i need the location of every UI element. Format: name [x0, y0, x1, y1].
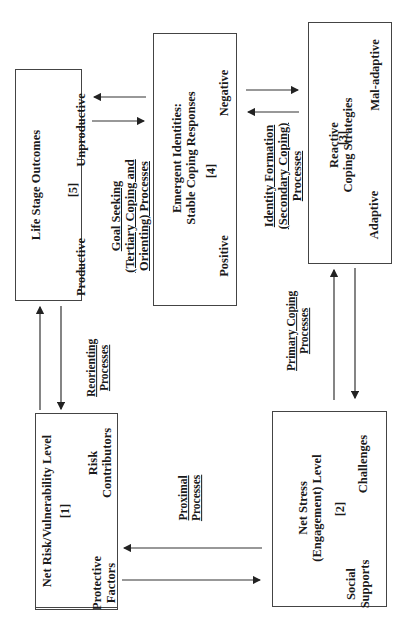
maladaptive-label: Mal-adaptive [368, 28, 382, 123]
emergent-title: Emergent Identities: Stable Coping Respo… [170, 78, 198, 238]
unproductive-label: Unproductive [74, 80, 88, 180]
life-stage-outcomes-box: Life Stage Outcomes [5] Productive Unpro… [15, 69, 82, 301]
goal-seeking-label: Goal Seeking (Tertiary Coping and Orient… [109, 141, 151, 291]
emergent-identities-box: Emergent Identities: Stable Coping Respo… [153, 33, 237, 306]
life-stage-title: Life Stage Outcomes [29, 110, 43, 260]
productive-label: Productive [74, 227, 88, 307]
identity-formation-label: Identity Formation (Secondary Coping) Pr… [262, 106, 304, 246]
reactive-number: [3] [336, 123, 350, 153]
primary-coping-label: Primary Coping Processes [285, 276, 311, 386]
emergent-number: [4] [204, 156, 218, 186]
net-risk-title: Net Risk/Vulnerability Level [40, 416, 54, 606]
protective-factors-label: Protective Factors [90, 543, 118, 623]
net-stress-title: Net Stress (Engagement) Level [296, 443, 324, 573]
reorienting-label: Reorienting Processes [85, 323, 111, 413]
net-stress-number: [2] [333, 494, 347, 524]
adaptive-label: Adaptive [367, 175, 381, 255]
net-risk-number: [1] [58, 496, 72, 526]
challenges-label: Challenges [356, 419, 370, 509]
net-stress-box: Net Stress (Engagement) Level [2] Social… [272, 411, 387, 607]
negative-label: Negative [217, 53, 231, 133]
reactive-coping-box: Reactive Coping Strategies [3] Adaptive … [308, 22, 392, 264]
proximal-label: Proximal Processes [177, 463, 203, 533]
social-supports-label: Social Supports [344, 549, 372, 619]
net-risk-box: Net Risk/Vulnerability Level [1] Protect… [35, 413, 118, 610]
positive-label: Positive [217, 216, 231, 296]
risk-contributors-label: Risk Contributors [86, 413, 114, 513]
